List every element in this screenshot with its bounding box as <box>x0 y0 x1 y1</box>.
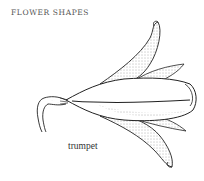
shape-caption: trumpet <box>68 141 98 151</box>
calyx-and-stem <box>37 97 68 132</box>
trumpet-flower-illustration <box>0 0 204 181</box>
flower-body <box>66 78 196 121</box>
